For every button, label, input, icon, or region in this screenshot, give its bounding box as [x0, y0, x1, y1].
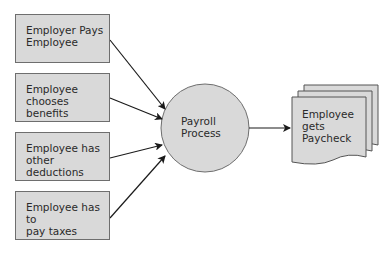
label-line: Process — [181, 127, 229, 139]
input-label: Employee has to pay taxes — [26, 201, 109, 237]
input-label: Employee has other deductions — [26, 142, 109, 178]
process-label: Payroll Process — [181, 115, 229, 139]
label-line: Employee — [302, 108, 354, 120]
arrow-pay-taxes — [110, 156, 165, 218]
label-line: Employee — [26, 36, 103, 48]
label-line: Employee — [26, 83, 109, 95]
label-line: pay taxes — [26, 225, 109, 237]
input-employee-chooses-benefits: Employee chooses benefits — [15, 73, 110, 122]
label-line: Employee has — [26, 142, 109, 154]
output-label: Employee gets Paycheck — [302, 108, 354, 144]
input-employer-pays-employee: Employer Pays Employee — [15, 14, 110, 63]
arrow-chooses-benefits — [110, 98, 162, 119]
label-line: Employer Pays — [26, 24, 103, 36]
label-line: chooses benefits — [26, 95, 109, 119]
arrow-other-deductions — [110, 145, 162, 158]
label-line: Paycheck — [302, 132, 354, 144]
input-label: Employee chooses benefits — [26, 83, 109, 119]
input-employee-pays-taxes: Employee has to pay taxes — [15, 191, 110, 240]
label-line: Payroll — [181, 115, 229, 127]
label-line: Employee has to — [26, 201, 109, 225]
input-employee-other-deductions: Employee has other deductions — [15, 132, 110, 181]
input-label: Employer Pays Employee — [26, 24, 103, 48]
arrow-employer-pays — [110, 40, 165, 109]
label-line: other deductions — [26, 154, 109, 178]
label-line: gets — [302, 120, 354, 132]
